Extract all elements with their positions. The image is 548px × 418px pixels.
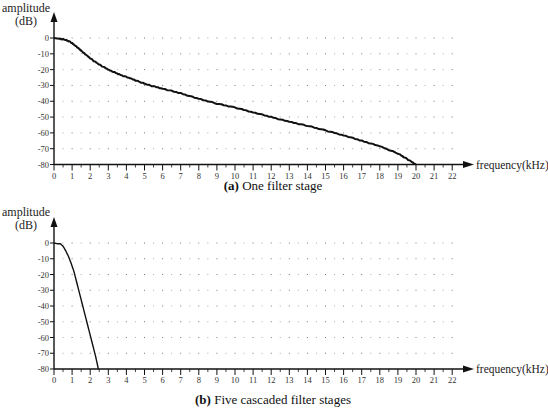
chart-caption: (b) Five cascaded filter stages <box>195 392 351 407</box>
x-tick-label: 15 <box>321 375 330 385</box>
x-tick-label: 6 <box>160 171 164 181</box>
x-tick-label: 19 <box>394 171 403 181</box>
x-tick-label: 17 <box>357 171 366 181</box>
x-tick-label: 4 <box>124 171 129 181</box>
y-tick-label: -30 <box>38 80 49 90</box>
figure: amplitude(dB)frequency(kHz)0-10-20-30-40… <box>0 0 548 418</box>
y-tick-label: -40 <box>38 301 49 311</box>
x-tick-label: 8 <box>197 375 201 385</box>
x-axis-title: frequency(kHz) <box>476 159 548 172</box>
y-tick-label: -50 <box>38 317 49 327</box>
y-axis-arrow-icon <box>51 12 58 22</box>
x-tick-label: 14 <box>303 375 312 385</box>
x-tick-label: 10 <box>231 375 240 385</box>
chart-caption: (a) One filter stage <box>224 178 323 193</box>
x-tick-label: 15 <box>321 171 330 181</box>
y-tick-label: 0 <box>45 238 49 248</box>
x-tick-label: 13 <box>285 375 294 385</box>
y-axis-unit: (dB) <box>15 218 37 232</box>
x-tick-label: 8 <box>197 171 201 181</box>
y-tick-label: -20 <box>38 270 49 280</box>
x-tick-label: 20 <box>412 171 421 181</box>
x-tick-label: 1 <box>70 375 74 385</box>
y-tick-label: -60 <box>38 333 49 343</box>
x-axis-arrow-icon <box>463 366 474 373</box>
x-tick-label: 11 <box>249 375 257 385</box>
y-axis-title: amplitude <box>2 1 50 15</box>
x-axis-title: frequency(kHz) <box>476 363 548 376</box>
x-tick-label: 1 <box>70 171 74 181</box>
grid-dots <box>63 243 453 354</box>
y-axis-arrow-icon <box>51 217 58 227</box>
x-tick-label: 7 <box>179 171 183 181</box>
x-tick-label: 7 <box>179 375 183 385</box>
x-tick-label: 3 <box>106 375 110 385</box>
x-tick-label: 18 <box>376 375 385 385</box>
y-tick-label: -80 <box>38 160 49 170</box>
x-tick-label: 4 <box>124 375 129 385</box>
x-tick-label: 20 <box>412 375 421 385</box>
x-tick-label: 17 <box>357 375 366 385</box>
y-axis-unit: (dB) <box>15 14 37 28</box>
y-tick-label: -50 <box>38 112 49 122</box>
y-tick-label: -70 <box>38 348 49 358</box>
x-tick-label: 2 <box>88 375 92 385</box>
y-tick-label: -10 <box>38 49 49 59</box>
x-tick-label: 6 <box>160 375 164 385</box>
x-tick-label: 0 <box>52 375 56 385</box>
x-tick-label: 9 <box>215 375 219 385</box>
y-tick-label: -10 <box>38 254 49 264</box>
y-tick-label: -60 <box>38 128 49 138</box>
x-tick-label: 18 <box>376 171 385 181</box>
x-tick-label: 12 <box>267 375 276 385</box>
x-tick-label: 9 <box>215 171 219 181</box>
x-tick-label: 16 <box>339 171 348 181</box>
y-tick-label: -70 <box>38 144 49 154</box>
x-axis-arrow-icon <box>463 161 474 168</box>
x-tick-label: 16 <box>339 375 348 385</box>
data-series-line <box>54 243 98 369</box>
x-tick-label: 21 <box>430 171 439 181</box>
x-tick-label: 2 <box>88 171 92 181</box>
y-tick-label: -20 <box>38 65 49 75</box>
x-tick-label: 0 <box>52 171 56 181</box>
y-tick-label: -80 <box>38 364 49 374</box>
x-tick-label: 21 <box>430 375 439 385</box>
x-tick-label: 5 <box>142 171 146 181</box>
y-tick-label: -30 <box>38 285 49 295</box>
x-tick-label: 3 <box>106 171 110 181</box>
x-tick-label: 5 <box>142 375 146 385</box>
y-tick-label: -40 <box>38 96 49 106</box>
y-tick-label: 0 <box>45 33 49 43</box>
x-tick-label: 22 <box>448 171 457 181</box>
x-tick-label: 22 <box>448 375 457 385</box>
chart-panel-a: amplitude(dB)frequency(kHz)0-10-20-30-40… <box>2 1 548 193</box>
chart-panel-b: amplitude(dB)frequency(kHz)0-10-20-30-40… <box>2 205 548 407</box>
y-axis-title: amplitude <box>2 205 50 219</box>
grid-dots <box>63 38 453 150</box>
x-tick-label: 19 <box>394 375 403 385</box>
